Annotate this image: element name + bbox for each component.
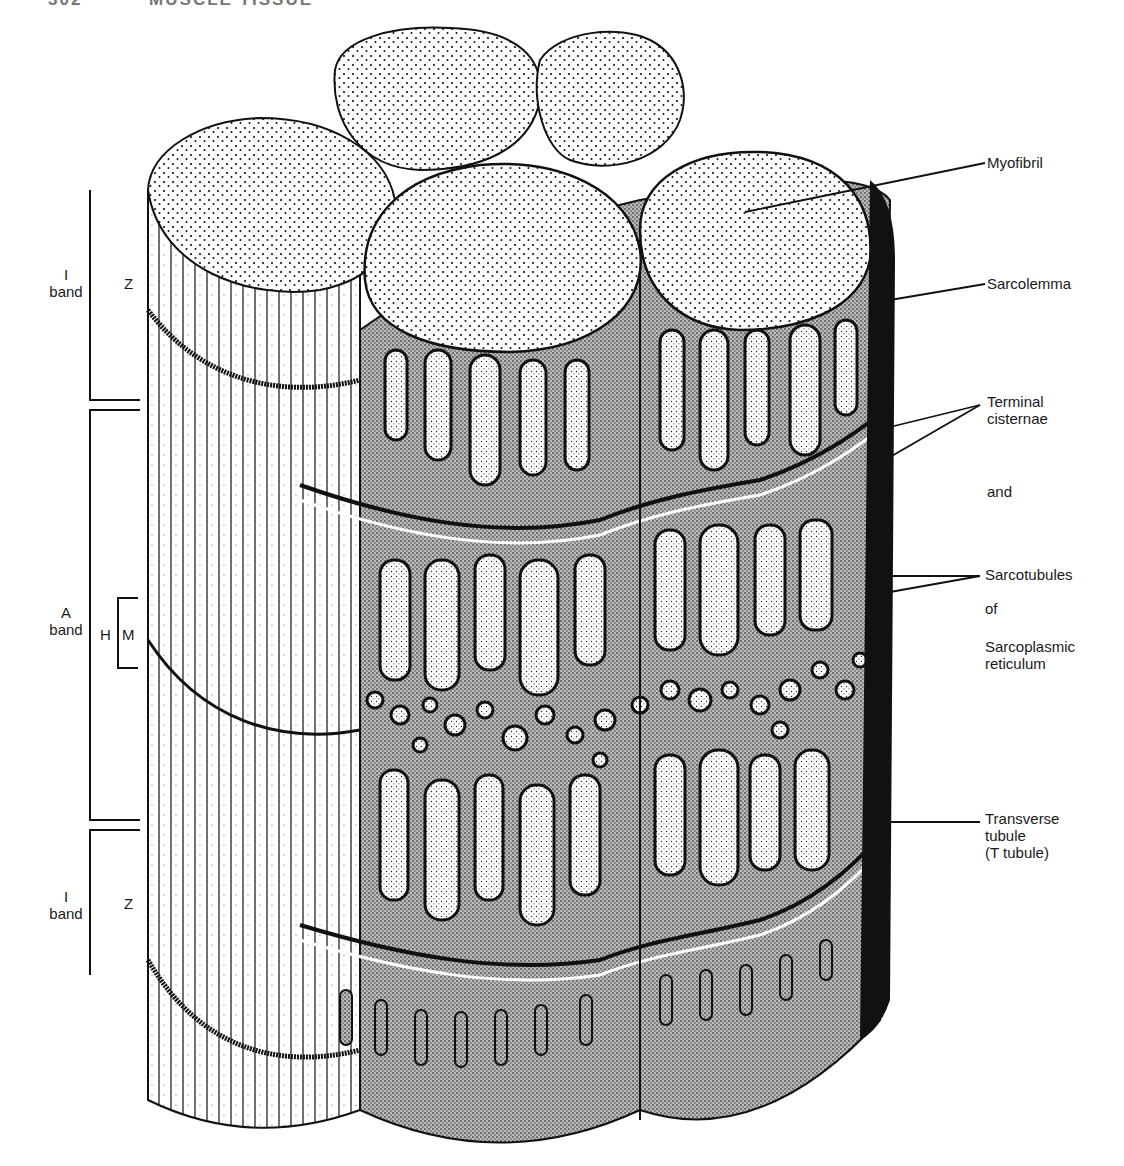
label-sarcolemma: Sarcolemma (987, 275, 1071, 292)
muscle-fiber-illustration (0, 0, 1124, 1166)
band-brackets (90, 190, 140, 975)
label-z-top: Z (124, 275, 133, 292)
label-a-band: A band (44, 604, 88, 638)
label-line: tubule (985, 827, 1059, 844)
label-i-band-top: I band (44, 266, 88, 300)
label-m: M (122, 626, 135, 643)
label-sarcotubules: Sarcotubules (985, 566, 1073, 583)
label-z-bottom: Z (124, 895, 133, 912)
artist-signature: wo (862, 982, 888, 1002)
label-of: of (985, 600, 998, 617)
label-sarcoplasmic-reticulum: Sarcoplasmic reticulum (985, 638, 1075, 672)
label-line: (T tubule) (985, 844, 1059, 861)
label-and: and (987, 483, 1012, 500)
label-h: H (100, 626, 111, 643)
label-line: band (44, 905, 88, 922)
label-transverse-tubule: Transverse tubule (T tubule) (985, 810, 1059, 861)
back-myofibrils (334, 28, 683, 170)
label-line: band (44, 283, 88, 300)
label-line: cisternae (987, 410, 1048, 427)
label-myofibril: Myofibril (987, 154, 1043, 171)
label-line: reticulum (985, 655, 1075, 672)
label-line: Sarcoplasmic (985, 638, 1075, 655)
label-line: A (44, 604, 88, 621)
label-terminal-cisternae: Terminal cisternae (987, 393, 1048, 427)
label-line: Transverse (985, 810, 1059, 827)
left-myofibril-cylinder (148, 118, 396, 1128)
label-line: Terminal (987, 393, 1048, 410)
label-line: I (44, 266, 88, 283)
label-line: I (44, 888, 88, 905)
label-i-band-bottom: I band (44, 888, 88, 922)
label-line: band (44, 621, 88, 638)
